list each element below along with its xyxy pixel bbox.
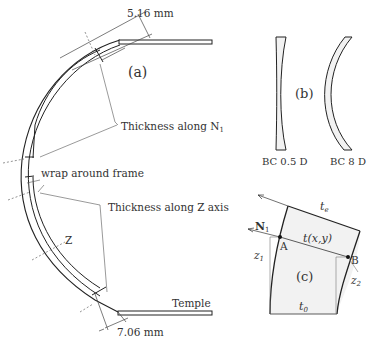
lens-right-label: BC 8 D [330, 156, 366, 167]
panel-b-label: (b) [295, 86, 313, 101]
lens-bc-8d [325, 37, 352, 150]
panel-b-drawing [276, 37, 352, 150]
z1-label: z1 [253, 249, 264, 263]
panel-a-label: (a) [128, 64, 147, 80]
t-e-label: te [320, 200, 329, 214]
n1-label: N1 [255, 220, 270, 234]
point-b-marker [346, 255, 350, 259]
callout-thickness-z: Thickness along Z axis [108, 201, 229, 213]
point-b-label: B [351, 254, 359, 266]
z-axis-label: Z [65, 234, 72, 246]
point-a-label: A [279, 240, 288, 252]
lens-bc-0-5d [276, 37, 286, 150]
panel-c-label: (c) [296, 269, 313, 284]
point-a-marker [278, 235, 282, 239]
temple-label: Temple [172, 297, 211, 309]
lens-left-label: BC 0.5 D [262, 156, 307, 167]
figure: 5.16 mm (a) Thickness along N1 wrap arou… [0, 0, 371, 348]
callout-thickness-n1: Thickness along N1 [121, 120, 224, 134]
figure-canvas: 5.16 mm (a) Thickness along N1 wrap arou… [0, 0, 371, 348]
dim-bottom-label: 7.06 mm [117, 326, 164, 338]
callout-wrap-around-frame: wrap around frame [41, 167, 144, 179]
t-xy-label: t(x,y) [303, 232, 332, 245]
z2-label: z2 [350, 274, 362, 288]
panel-c-drawing [248, 195, 360, 314]
dim-top-label: 5.16 mm [127, 7, 174, 19]
